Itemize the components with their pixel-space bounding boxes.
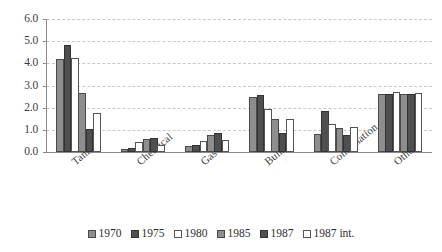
legend-label: 1987 [271,228,294,240]
legend-item: 1987 [260,228,294,240]
y-tick-label: 1.0 [10,124,38,136]
legend-label: 1970 [99,228,122,240]
x-axis-line [46,152,432,153]
y-tick-label: 3.0 [10,80,38,92]
legend-swatch-icon [303,230,311,238]
y-tick-label-wrap: 6.0 [8,13,38,25]
legend-label: 1987 int. [314,228,355,240]
bar [93,113,101,152]
legend-item: 1987 int. [303,228,355,240]
y-tick-label: 0.0 [10,146,38,158]
bar-chart: 0.01.02.03.04.05.06.0 TankChemicalGasBul… [0,0,442,252]
legend-item: 1980 [174,228,208,240]
y-tick-label-wrap: 1.0 [8,124,38,136]
y-tick-label: 2.0 [10,102,38,114]
legend-swatch-icon [88,230,96,238]
bar [415,93,423,152]
y-tick-mark [43,152,47,153]
y-tick-label: 4.0 [10,57,38,69]
legend-label: 1980 [185,228,208,240]
legend-item: 1985 [217,228,251,240]
legend-item: 1975 [131,228,165,240]
y-tick-label-wrap: 2.0 [8,102,38,114]
bar [222,140,230,152]
y-tick-label-wrap: 4.0 [8,57,38,69]
legend-swatch-icon [174,230,182,238]
bar [286,119,294,152]
legend-label: 1985 [228,228,251,240]
bar [350,127,358,152]
legend-swatch-icon [260,230,268,238]
plot-area: 0.01.02.03.04.05.06.0 TankChemicalGasBul… [0,0,442,205]
y-tick-label: 5.0 [10,35,38,47]
y-tick-label-wrap: 3.0 [8,80,38,92]
legend-swatch-icon [217,230,225,238]
y-tick-label-wrap: 5.0 [8,35,38,47]
y-tick-label: 6.0 [10,13,38,25]
y-tick-label-wrap: 0.0 [8,146,38,158]
legend-swatch-icon [131,230,139,238]
legend-label: 1975 [142,228,165,240]
chart-legend: 197019751980198519871987 int. [0,228,442,240]
legend-item: 1970 [88,228,122,240]
bar [157,145,165,152]
